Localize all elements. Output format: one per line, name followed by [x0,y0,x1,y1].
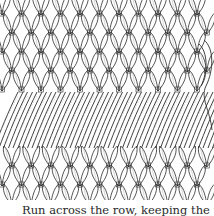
knitting-illustration [0,0,214,200]
figure-caption: Run across the row, keeping the tensi [0,203,214,216]
knit-fabric-drawing [0,0,214,200]
